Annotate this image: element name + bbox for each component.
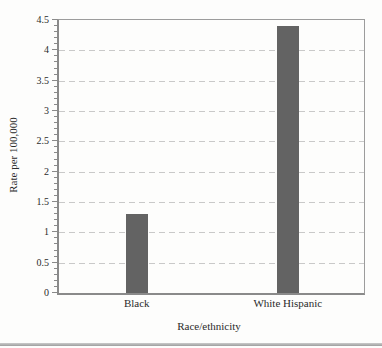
y-minor-tick: [54, 159, 57, 160]
y-minor-tick: [54, 55, 57, 56]
gridline-y-3.5: [59, 81, 364, 82]
y-tick-label-3: 3: [44, 106, 49, 116]
y-minor-tick: [54, 243, 57, 244]
y-minor-tick: [54, 237, 57, 238]
y-tick-label-1: 1: [44, 227, 49, 237]
x-category-label: White Hispanic: [253, 297, 322, 309]
gridline-y-1.5: [59, 202, 364, 203]
bar-black: [126, 214, 148, 293]
y-minor-tick: [54, 189, 57, 190]
gridline-y-4.0: [59, 50, 364, 51]
y-tick-label-0: 0: [44, 288, 49, 298]
y-major-tick: [52, 231, 57, 232]
y-minor-tick: [54, 134, 57, 135]
y-minor-tick: [54, 268, 57, 269]
y-minor-tick: [54, 104, 57, 105]
gridline-y-2.5: [59, 141, 364, 142]
y-minor-tick: [54, 43, 57, 44]
y-minor-tick: [54, 183, 57, 184]
y-minor-tick: [54, 25, 57, 26]
y-minor-tick: [54, 195, 57, 196]
y-minor-tick: [54, 274, 57, 275]
x-category-label: Black: [124, 297, 150, 309]
y-minor-tick: [54, 128, 57, 129]
figure-bar-chart: Rate per 100,000 00.511.522.533.544.5 Bl…: [0, 0, 382, 348]
y-major-tick: [52, 49, 57, 50]
y-minor-tick: [54, 152, 57, 153]
gridline-y-3.0: [59, 111, 364, 112]
y-minor-tick: [54, 68, 57, 69]
plot-area: [57, 19, 365, 295]
y-major-tick: [52, 110, 57, 111]
y-minor-tick: [54, 177, 57, 178]
y-tick-label-2.5: 2.5: [37, 136, 50, 146]
y-minor-tick: [54, 286, 57, 287]
y-minor-tick: [54, 86, 57, 87]
y-minor-tick: [54, 256, 57, 257]
y-minor-tick: [54, 122, 57, 123]
y-major-tick: [52, 19, 57, 20]
y-major-tick: [52, 171, 57, 172]
y-tick-label-1.5: 1.5: [37, 197, 50, 207]
y-tick-label-3.5: 3.5: [37, 76, 50, 86]
y-minor-tick: [54, 280, 57, 281]
y-minor-tick: [54, 92, 57, 93]
y-tick-label-2: 2: [44, 167, 49, 177]
y-tick-label-4: 4: [44, 45, 49, 55]
y-minor-tick: [54, 213, 57, 214]
y-major-tick: [52, 292, 57, 293]
gridline-y-0.5: [59, 263, 364, 264]
y-major-tick: [52, 262, 57, 263]
y-axis-title: Rate per 100,000: [7, 117, 19, 192]
y-minor-tick: [54, 37, 57, 38]
x-axis-title: Race/ethnicity: [177, 320, 241, 332]
y-minor-tick: [54, 116, 57, 117]
y-major-tick: [52, 201, 57, 202]
y-tick-label-0.5: 0.5: [37, 258, 50, 268]
page-divider-rule: [0, 343, 382, 346]
y-minor-tick: [54, 225, 57, 226]
y-tick-label-4.5: 4.5: [37, 15, 50, 25]
y-minor-tick: [54, 219, 57, 220]
y-major-tick: [52, 80, 57, 81]
y-minor-tick: [54, 250, 57, 251]
y-minor-tick: [54, 146, 57, 147]
y-minor-tick: [54, 98, 57, 99]
y-minor-tick: [54, 165, 57, 166]
y-major-tick: [52, 140, 57, 141]
bar-white-hispanic: [277, 26, 299, 293]
y-minor-tick: [54, 74, 57, 75]
y-minor-tick: [54, 31, 57, 32]
y-minor-tick: [54, 61, 57, 62]
gridline-y-1.0: [59, 232, 364, 233]
y-minor-tick: [54, 207, 57, 208]
gridline-y-2.0: [59, 172, 364, 173]
